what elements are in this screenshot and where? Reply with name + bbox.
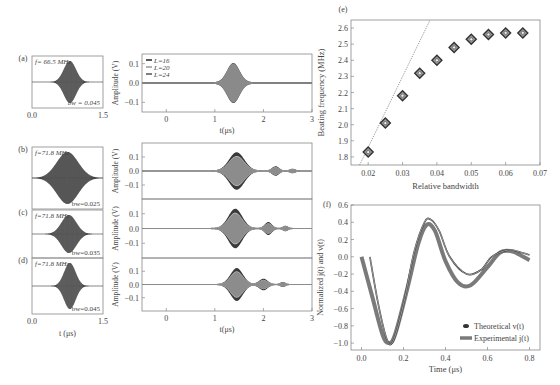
y-tick-label: 2.0: [338, 121, 348, 130]
annotation-frequency: f= 66.5 MHz: [35, 58, 71, 66]
x-tick-label: 0.2: [399, 354, 409, 363]
x-tick-label: 0.03: [396, 169, 410, 178]
y-tick-label: 0.0: [129, 225, 139, 234]
x-axis-label: Time (μs): [429, 364, 462, 374]
annotation-bandwidth: bw = 0.045: [68, 99, 101, 107]
x-tick-label: 0.06: [499, 169, 513, 178]
data-point-center: [521, 31, 524, 34]
data-point-center: [401, 94, 404, 97]
y-tick-label: 1.9: [338, 137, 348, 146]
y-tick-label: −1.0: [333, 339, 348, 348]
data-point-center: [418, 72, 421, 75]
annotation-frequency: f=71.8 MHz: [35, 212, 70, 220]
x-tick-label: 0.02: [361, 169, 375, 178]
x-tick-label: 3: [310, 314, 314, 323]
y-tick-label: −0.8: [333, 322, 348, 331]
plot-frame-e: [351, 20, 540, 165]
y-tick-label: −0.1: [124, 294, 139, 303]
figure: (a)f= 66.5 MHzbw = 0.0450.01.5(b)f=71.8 …: [0, 0, 560, 385]
data-point-center: [504, 31, 507, 34]
y-tick-label: −0.1: [124, 239, 139, 248]
data-point-center: [487, 33, 490, 36]
data-point-center: [384, 122, 387, 125]
y-tick-label: 2.6: [338, 24, 348, 33]
y-tick-label: 0.0: [129, 281, 139, 290]
x-tick-label: 0.05: [464, 169, 478, 178]
x-tick-label: 0.0: [27, 111, 37, 120]
y-tick-label: 2.2: [338, 89, 348, 98]
y-tick-label: 0.0: [129, 167, 139, 176]
y-tick-label: 2.3: [338, 72, 348, 81]
signal-envelope-c-large-2: [142, 213, 312, 243]
wave-packet-c-small: [32, 215, 103, 253]
y-tick-label: 0.4: [338, 218, 348, 227]
y-tick-label: 2.5: [338, 40, 348, 49]
x-tick-label: 0.8: [525, 354, 535, 363]
y-tick-label: 2.4: [338, 56, 348, 65]
y-tick-label: −0.1: [124, 98, 139, 107]
y-axis-label: Amplitude (V): [111, 60, 120, 105]
data-point-center: [367, 151, 370, 154]
panel-label-a-small: (a): [19, 54, 28, 63]
y-tick-label: 0.1: [129, 153, 139, 162]
annotation-bandwidth: bw=0.025: [72, 200, 101, 208]
y-axis-label: Amplitude (V): [111, 148, 120, 193]
panel-label-c-small: (c): [19, 208, 28, 217]
y-tick-label: 0.6: [338, 201, 348, 210]
y-axis-label: Amplitude (V): [111, 206, 120, 251]
y-axis-label: Normalized j(t) and v(t): [316, 239, 325, 316]
x-tick-label: 0: [164, 314, 168, 323]
data-point-center: [435, 59, 438, 62]
legend-label-experimental: Experimental j(t): [474, 334, 529, 343]
x-tick-label: 2: [261, 115, 265, 124]
panel-label-b-small: (b): [18, 145, 28, 154]
signal-envelope-d-large-2: [142, 272, 312, 297]
x-tick-label: 0.6: [483, 354, 493, 363]
x-axis-label: t(μs): [220, 126, 235, 135]
panel-label-e: (e): [339, 5, 348, 14]
panel-label-d-small: (d): [18, 256, 28, 265]
y-tick-label: 0.1: [129, 60, 139, 69]
annotation-frequency: f=71.8 MHz: [35, 149, 70, 157]
annotation-bandwidth: bw=0.045: [72, 305, 101, 313]
y-tick-label: 0.1: [129, 267, 139, 276]
legend-label-theoretical: Theoretical v(t): [474, 322, 524, 331]
fit-line: [360, 20, 430, 165]
y-tick-label: −0.6: [333, 305, 348, 314]
y-tick-label: 1.8: [338, 153, 348, 162]
wave-packet-d-small: [32, 263, 103, 309]
x-tick-label: 0: [164, 115, 168, 124]
annotation-frequency: f=71.8 MHz: [35, 260, 70, 268]
data-point-center: [452, 46, 455, 49]
x-tick-label: 0.0: [27, 317, 37, 326]
x-tick-label: 0.07: [533, 169, 547, 178]
y-tick-label: 0.1: [129, 210, 139, 219]
annotation-bandwidth: bw=0.035: [72, 249, 101, 257]
x-axis-label: Relative bandwidth: [412, 181, 479, 191]
x-tick-label: 1: [213, 115, 217, 124]
data-point-center: [470, 38, 473, 41]
y-tick-label: 0.0: [129, 79, 139, 88]
panel-label-f: (f): [323, 200, 331, 209]
x-tick-label: 1.5: [98, 111, 108, 120]
x-tick-label: 0.4: [441, 354, 451, 363]
x-tick-label: 1.5: [98, 317, 108, 326]
x-axis-label: t (μs): [59, 329, 76, 338]
y-tick-label: −0.2: [333, 270, 348, 279]
legend-label: L=24: [153, 71, 170, 79]
x-tick-label: 1: [213, 314, 217, 323]
x-tick-label: 0.0: [357, 354, 367, 363]
x-tick-label: 0.04: [430, 169, 444, 178]
y-tick-label: 0.2: [338, 236, 348, 245]
signal-envelope-b-large-2: [142, 157, 312, 186]
y-tick-label: −0.4: [333, 287, 348, 296]
y-tick-label: 2.1: [338, 105, 348, 114]
legend-marker-theoretical: [463, 324, 469, 328]
x-axis-label: t(μs): [220, 325, 235, 334]
y-tick-label: 0.0: [338, 253, 348, 262]
x-tick-label: 2: [261, 314, 265, 323]
x-tick-label: 3: [310, 115, 314, 124]
y-tick-label: −0.1: [124, 181, 139, 190]
y-axis-label: Beating frequency (MHz): [316, 48, 326, 136]
y-axis-label: Amplitude (V): [111, 262, 120, 307]
